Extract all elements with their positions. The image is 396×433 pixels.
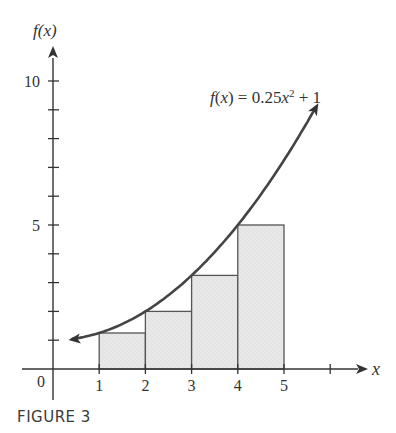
y-axis-arrow-icon bbox=[48, 46, 58, 58]
y-tick-label: 10 bbox=[24, 73, 40, 90]
x-tick-label: 5 bbox=[280, 377, 288, 394]
rectangle-2 bbox=[145, 311, 191, 369]
approximating-rectangles bbox=[99, 225, 284, 369]
y-tick-label: 5 bbox=[32, 217, 40, 234]
origin-label: 0 bbox=[37, 373, 45, 390]
y-axis-label: f(x) bbox=[33, 21, 57, 40]
x-tick-label: 4 bbox=[234, 377, 242, 394]
x-tick-label: 3 bbox=[188, 377, 196, 394]
rectangle-1 bbox=[99, 333, 145, 369]
x-tick-label: 1 bbox=[95, 377, 103, 394]
x-tick-label: 2 bbox=[141, 377, 149, 394]
riemann-sum-chart: 12345510 f(x) x 0 f(x) = 0.25x2 + 1 bbox=[0, 0, 396, 433]
figure-caption: FIGURE 3 bbox=[17, 408, 91, 426]
x-axis-label: x bbox=[371, 359, 380, 379]
function-label: f(x) = 0.25x2 + 1 bbox=[210, 87, 321, 107]
rectangle-4 bbox=[238, 225, 284, 369]
rectangle-3 bbox=[192, 275, 238, 369]
